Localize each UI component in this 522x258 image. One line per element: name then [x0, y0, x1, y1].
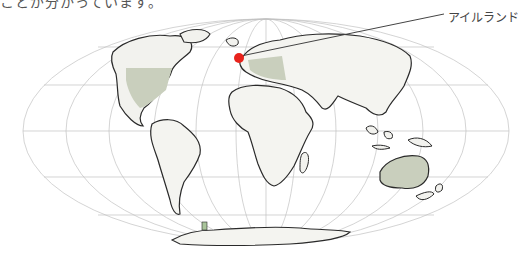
mollweide-map-svg [0, 0, 522, 258]
islands-southeast-asia [366, 126, 432, 149]
ireland-marker-dot[interactable] [234, 53, 244, 63]
continent-australia [380, 156, 443, 200]
world-map: アイルランド [0, 0, 522, 258]
continent-south-america [151, 120, 201, 215]
ireland-label: アイルランド [448, 8, 519, 25]
continent-africa [229, 85, 313, 186]
continent-antarctica [172, 222, 350, 246]
